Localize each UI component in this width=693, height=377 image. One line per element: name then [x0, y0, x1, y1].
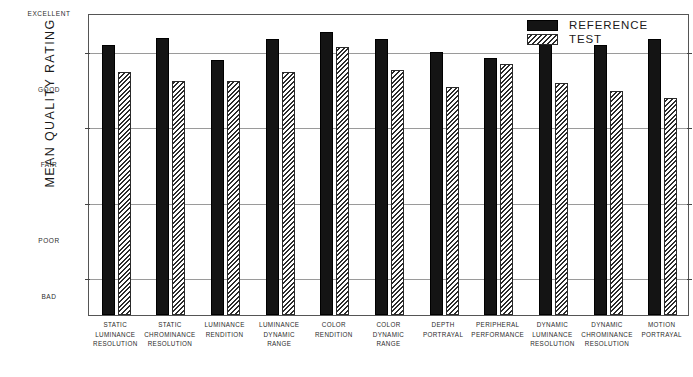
bar-test: [391, 70, 404, 315]
legend-label-reference: REFERENCE: [569, 20, 648, 31]
bar-group: [484, 15, 513, 315]
bar-reference: [211, 60, 224, 315]
x-tick-label-line: DEPTH: [416, 320, 471, 330]
y-tick-label-excellent: EXCELLENT: [12, 10, 86, 17]
bar-reference: [430, 52, 443, 315]
x-tick-label-line: COLOR: [307, 320, 362, 330]
bar-test: [336, 47, 349, 315]
x-tick-label: LUMINANCERENDITION: [197, 320, 252, 339]
x-tick-label-line: PERFORMANCE: [470, 330, 525, 340]
x-tick-label: PERIPHERALPERFORMANCE: [470, 320, 525, 339]
bar-reference: [484, 58, 497, 315]
x-tick-label: STATICLUMINANCERESOLUTION: [88, 320, 143, 349]
bar-test: [118, 72, 131, 315]
bar-reference: [539, 36, 552, 315]
bar-reference: [156, 38, 169, 315]
y-tick-label-poor: POOR: [12, 237, 86, 244]
x-tick-label: STATICCHROMINANCERESOLUTION: [143, 320, 198, 349]
x-tick-label-line: PORTRAYAL: [416, 330, 471, 340]
y-tick-label-good: GOOD: [12, 86, 86, 93]
x-tick-label-line: RESOLUTION: [143, 339, 198, 349]
bar-group: [266, 15, 295, 315]
y-tick-label-bad: BAD: [12, 293, 86, 300]
chart-legend: REFERENCETEST: [527, 20, 648, 48]
plot-inner: [89, 15, 688, 315]
x-tick-label-line: CHROMINANCE: [580, 330, 635, 340]
x-tick-label-line: LUMINANCE: [525, 330, 580, 340]
bar-test: [610, 91, 623, 315]
bar-reference: [320, 32, 333, 315]
x-tick-label-line: DYNAMIC: [525, 320, 580, 330]
bar-test: [227, 81, 240, 315]
x-tick-label-line: LUMINANCE: [197, 320, 252, 330]
bar-group: [430, 15, 459, 315]
bar-test: [172, 81, 185, 315]
x-tick-label-line: RANGE: [361, 339, 416, 349]
x-tick-label: MOTIONPORTRAYAL: [634, 320, 689, 339]
x-tick-label-line: RENDITION: [307, 330, 362, 340]
x-tick-label-line: COLOR: [361, 320, 416, 330]
bar-group: [156, 15, 185, 315]
bar-group: [211, 15, 240, 315]
bar-group: [375, 15, 404, 315]
bar-reference: [375, 39, 388, 315]
legend-item-reference: REFERENCE: [527, 20, 648, 31]
bar-test: [282, 72, 295, 315]
bar-test: [664, 98, 677, 315]
x-tick-label-line: STATIC: [143, 320, 198, 330]
x-tick-label: COLORRENDITION: [307, 320, 362, 339]
x-tick-label-line: DYNAMIC: [580, 320, 635, 330]
x-tick-label: DYNAMICLUMINANCERESOLUTION: [525, 320, 580, 349]
x-axis-tick-labels: STATICLUMINANCERESOLUTIONSTATICCHROMINAN…: [88, 320, 689, 376]
x-tick-label-line: RESOLUTION: [525, 339, 580, 349]
bar-group: [594, 15, 623, 315]
bar-group: [539, 15, 568, 315]
plot-area: REFERENCETEST: [88, 14, 689, 316]
x-tick-label-line: LUMINANCE: [252, 320, 307, 330]
legend-swatch-test: [527, 34, 558, 45]
x-tick-label-line: STATIC: [88, 320, 143, 330]
bar-group: [102, 15, 131, 315]
y-tick-label-fair: FAIR: [12, 161, 86, 168]
x-tick-label: DEPTHPORTRAYAL: [416, 320, 471, 339]
chart-figure: MEAN QUALITY RATING EXCELLENTGOODFAIRPOO…: [0, 0, 693, 377]
bar-reference: [648, 39, 661, 315]
bar-group: [320, 15, 349, 315]
x-tick-label: COLORDYNAMICRANGE: [361, 320, 416, 349]
bar-reference: [266, 39, 279, 315]
bar-reference: [594, 45, 607, 315]
x-tick-label-line: PORTRAYAL: [634, 330, 689, 340]
x-tick-label-line: RESOLUTION: [580, 339, 635, 349]
x-tick-label-line: PERIPHERAL: [470, 320, 525, 330]
legend-swatch-reference: [527, 20, 558, 31]
bar-group: [648, 15, 677, 315]
bar-test: [500, 64, 513, 315]
x-tick-label-line: RESOLUTION: [88, 339, 143, 349]
x-tick-label-line: DYNAMIC: [361, 330, 416, 340]
bar-test: [555, 83, 568, 315]
legend-item-test: TEST: [527, 34, 648, 45]
x-tick-label-line: MOTION: [634, 320, 689, 330]
bar-series-container: [89, 15, 688, 315]
y-axis-tick-labels: EXCELLENTGOODFAIRPOORBAD: [10, 0, 86, 377]
x-tick-label-line: LUMINANCE: [88, 330, 143, 340]
x-tick-label-line: RANGE: [252, 339, 307, 349]
x-tick-label-line: CHROMINANCE: [143, 330, 198, 340]
x-tick-label-line: RENDITION: [197, 330, 252, 340]
x-tick-label: DYNAMICCHROMINANCERESOLUTION: [580, 320, 635, 349]
bar-reference: [102, 45, 115, 315]
x-tick-label-line: DYNAMIC: [252, 330, 307, 340]
x-tick-label: LUMINANCEDYNAMICRANGE: [252, 320, 307, 349]
bar-test: [446, 87, 459, 315]
legend-label-test: TEST: [569, 34, 602, 45]
